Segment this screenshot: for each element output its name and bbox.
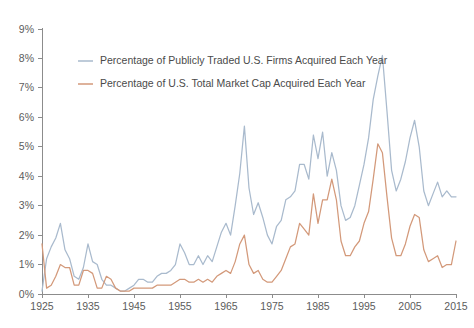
x-axis-tick-label: 1955 [168, 300, 192, 312]
series-line-firms [42, 56, 456, 292]
chart-plot-area: 0%1%2%3%4%5%6%7%8%9% 1925193519451955196… [0, 0, 474, 328]
x-axis-tick-label: 1985 [306, 300, 330, 312]
x-axis-tick-label: 1935 [76, 300, 100, 312]
x-axis-tick-label: 1965 [214, 300, 238, 312]
y-axis-tick-label: 1% [19, 258, 34, 270]
y-axis-tick-label: 6% [19, 111, 34, 123]
x-axis-tick-label: 2005 [398, 300, 422, 312]
legend-label-0: Percentage of Publicly Traded U.S. Firms… [100, 54, 388, 66]
acquisition-rate-line-chart: 0%1%2%3%4%5%6%7%8%9% 1925193519451955196… [0, 0, 474, 328]
x-axis-tick-label: 1925 [30, 300, 54, 312]
y-axis-tick-group: 0%1%2%3%4%5%6%7%8%9% [19, 23, 42, 300]
y-axis-tick-label: 9% [19, 23, 34, 35]
x-axis-tick-label: 1995 [352, 300, 376, 312]
data-series-group [42, 56, 456, 292]
y-axis-tick-label: 3% [19, 199, 34, 211]
y-axis-tick-label: 7% [19, 81, 34, 93]
y-axis-tick-label: 5% [19, 140, 34, 152]
series-line-market-cap [42, 144, 456, 291]
x-axis-tick-label: 1945 [122, 300, 146, 312]
y-axis-tick-label: 2% [19, 229, 34, 241]
y-axis-tick-label: 8% [19, 52, 34, 64]
legend-label-1: Percentage of U.S. Total Market Cap Acqu… [100, 77, 366, 89]
x-axis-tick-label: 2015 [444, 300, 468, 312]
x-axis-tick-label: 1975 [260, 300, 284, 312]
y-axis-tick-label: 0% [19, 288, 34, 300]
y-axis-tick-label: 4% [19, 170, 34, 182]
x-axis-tick-group: 1925193519451955196519751985199520052015 [30, 294, 468, 312]
chart-legend: Percentage of Publicly Traded U.S. Firms… [78, 54, 388, 89]
